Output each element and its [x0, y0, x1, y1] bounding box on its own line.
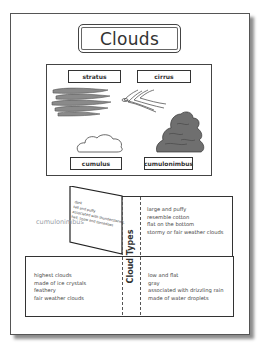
- label-cirrus: cirrus: [137, 70, 191, 83]
- stratus-cloud-icon: [50, 86, 112, 118]
- desc-line: stormy or fair weather clouds: [147, 229, 224, 237]
- label-stratus: stratus: [68, 70, 121, 83]
- desc-line: highest clouds: [34, 272, 86, 280]
- desc-line: made of water droplets: [148, 295, 224, 303]
- label-stratus-text: stratus: [82, 73, 106, 80]
- desc-line: resemble cotton: [147, 214, 224, 222]
- center-title: Cloud Types: [127, 229, 136, 283]
- cumulus-cloud-icon: [75, 132, 125, 154]
- label-cumulonimbus: cumulonimbus: [144, 157, 193, 170]
- desc-line: gray: [148, 280, 224, 288]
- center-title-wrap: Cloud Types: [108, 249, 154, 263]
- bottom-right-description: low and flat gray associated with drizzl…: [148, 272, 224, 302]
- label-cirrus-text: cirrus: [154, 73, 173, 80]
- page-title: Clouds: [100, 29, 159, 49]
- desc-line: low and flat: [148, 272, 224, 280]
- desc-line: flat on the bottom: [147, 221, 224, 229]
- label-cumulus-text: cumulus: [82, 160, 110, 167]
- cumulonimbus-cloud-icon: [155, 110, 207, 155]
- ghost-label-cumulonimbus: cumulonimbus: [36, 218, 84, 226]
- desc-line: fair weather clouds: [34, 295, 86, 303]
- desc-line: associated with drizzling rain: [148, 287, 224, 295]
- title-box: Clouds: [78, 24, 181, 53]
- label-cumulonimbus-text: cumulonimbus: [144, 160, 193, 167]
- desc-line: feathery: [34, 287, 86, 295]
- desc-line: large and puffy: [147, 206, 224, 214]
- bottom-left-description: highest clouds made of ice crystals feat…: [34, 272, 86, 302]
- top-right-description: large and puffy resemble cotton flat on …: [147, 206, 224, 236]
- label-cumulus: cumulus: [70, 157, 122, 170]
- desc-line: made of ice crystals: [34, 280, 86, 288]
